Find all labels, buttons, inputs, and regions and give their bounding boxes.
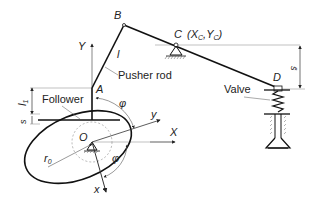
s-bar-label: s̄ [289, 66, 299, 71]
point-b-joint [123, 24, 126, 27]
pivot-c-icon [165, 43, 186, 59]
valve-train-diagram: Y X Follower A B l Pusher rod C (XC,YC) … [0, 0, 321, 202]
point-b-label: B [114, 9, 121, 21]
phi-upper-label: φ [119, 97, 126, 109]
cam-profile [14, 96, 142, 197]
point-c-label: C (XC,YC) [174, 28, 223, 41]
pusher-rod-label: Pusher rod [118, 69, 172, 81]
cam-y-axis [92, 120, 160, 142]
valve-label: Valve [224, 83, 251, 95]
x-axis-label: X [169, 126, 178, 138]
point-d-label: D [273, 71, 281, 83]
s-label: s [18, 119, 28, 124]
valve-leader [244, 97, 270, 100]
phi-lower-label: φ [112, 152, 119, 164]
pusher-rod-leader [105, 67, 118, 75]
r0-label: r0 [44, 152, 52, 165]
follower-label: Follower [42, 93, 84, 105]
l1-label: l1 [16, 100, 29, 106]
y-axis-label: Y [78, 40, 86, 52]
point-a-label: A [95, 83, 103, 95]
rod-length-label: l [117, 48, 120, 60]
cam-x-label: x [93, 183, 100, 195]
r0-line [48, 144, 92, 167]
valve-icon [264, 86, 290, 148]
point-o-label: O [79, 131, 88, 143]
cam-y-label: y [150, 108, 158, 120]
